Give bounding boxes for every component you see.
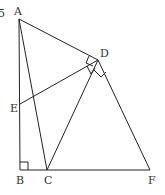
segment-ED bbox=[20, 60, 98, 104]
segment-DF bbox=[98, 60, 150, 170]
right-angle-mark-EDC bbox=[87, 66, 95, 74]
segment-AB bbox=[19, 19, 20, 170]
segment-AC bbox=[19, 19, 47, 170]
label-E: E bbox=[10, 102, 18, 115]
label-F: F bbox=[148, 174, 156, 187]
right-angle-mark-B bbox=[20, 162, 28, 170]
label-B: B bbox=[16, 174, 24, 187]
right-angle-mark-CDF bbox=[94, 70, 106, 77]
label-C: C bbox=[44, 174, 52, 187]
corner-mark: 5 bbox=[0, 7, 5, 20]
label-D: D bbox=[100, 47, 109, 60]
geometry-diagram: 5 A D E B C F bbox=[0, 0, 165, 195]
right-angle-mark-ADE bbox=[86, 56, 93, 66]
label-A: A bbox=[13, 5, 23, 18]
segment-DC bbox=[47, 60, 98, 170]
segment-AD bbox=[19, 19, 98, 60]
